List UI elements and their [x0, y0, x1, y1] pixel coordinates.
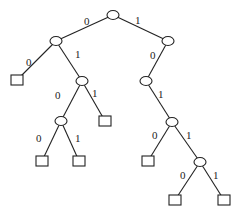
leaf-node [11, 75, 23, 85]
leaf-node [99, 116, 111, 126]
edge-label: 1 [75, 132, 81, 144]
leaf-node [36, 156, 48, 166]
internal-node [140, 77, 152, 86]
tree-edges [17, 15, 224, 200]
edge-label: 1 [92, 87, 98, 99]
internal-node [166, 118, 178, 127]
edge-label: 0 [180, 169, 186, 181]
edge-label: 0 [152, 129, 158, 141]
internal-node [55, 117, 67, 126]
internal-node [76, 77, 88, 86]
edge-label: 1 [135, 14, 141, 26]
tree-edge [146, 41, 168, 81]
leaf-node [142, 156, 154, 166]
edge-label: 0 [36, 132, 42, 144]
edge-label: 1 [75, 48, 81, 60]
tree-edge [200, 162, 224, 200]
edge-label: 0 [55, 89, 61, 101]
internal-node [50, 37, 62, 46]
tree-edge [56, 41, 82, 81]
tree-edge [172, 122, 200, 162]
edge-label: 0 [84, 15, 90, 27]
edge-label: 1 [213, 169, 219, 181]
edge-label: 1 [186, 129, 192, 141]
edge-label: 0 [150, 49, 156, 61]
leaf-node [169, 195, 181, 205]
tree-nodes [11, 11, 230, 206]
tree-edge [42, 121, 61, 161]
leaf-node [73, 156, 85, 166]
tree-edge [148, 122, 172, 161]
tree-edge [61, 81, 82, 121]
edge-label: 1 [158, 88, 164, 100]
tree-edge [113, 15, 168, 41]
internal-node [162, 37, 174, 46]
internal-node [194, 158, 206, 167]
edge-label: 0 [26, 56, 32, 68]
internal-node [107, 11, 119, 20]
leaf-node [218, 195, 230, 205]
tree-edge [175, 162, 200, 200]
binary-tree-diagram: 01010011010101 [0, 0, 238, 216]
tree-edge [17, 41, 56, 80]
